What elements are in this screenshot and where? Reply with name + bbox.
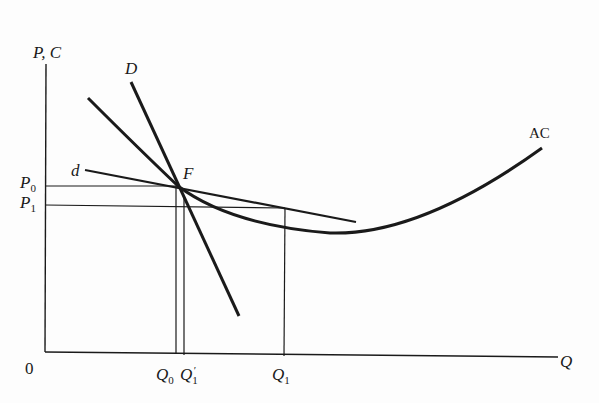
origin-label: 0 (25, 360, 34, 377)
p1-subscript: 1 (30, 202, 36, 214)
q1-guide-line (284, 208, 285, 356)
demand-curve-D (131, 82, 239, 316)
x-axis (45, 352, 558, 357)
x-axis-label: Q (560, 353, 572, 370)
curve-label-AC: AC (529, 126, 550, 141)
quantity-label-q0: Q0 (156, 366, 174, 383)
price-label-p0: P0 (20, 174, 36, 191)
average-cost-curve (88, 98, 542, 233)
price-label-p1: P1 (20, 194, 36, 211)
p0-subscript: 0 (30, 182, 36, 194)
curve-label-d: d (71, 162, 80, 179)
diagram-canvas: P, C Q 0 P0 P1 Q0 Q1′ Q1 D d AC F (0, 0, 599, 403)
p0-base: P (20, 173, 30, 192)
q0-subscript: 0 (168, 374, 174, 386)
p1-base: P (20, 193, 30, 212)
quantity-label-q1: Q1 (272, 366, 290, 383)
p1-guide-line (45, 205, 285, 208)
q1prime-base: Q (180, 365, 192, 384)
q1-subscript: 1 (284, 374, 290, 386)
q1prime-prime: ′ (194, 364, 196, 376)
diagram-graphics (0, 0, 599, 403)
q0-base: Q (156, 365, 168, 384)
y-axis-label: P, C (33, 44, 61, 61)
y-axis (45, 64, 46, 352)
curve-label-D: D (125, 60, 137, 77)
point-label-F: F (183, 165, 193, 182)
demand-curve-d (85, 170, 356, 222)
quantity-label-q1prime: Q1′ (180, 366, 196, 383)
q1-base: Q (272, 365, 284, 384)
